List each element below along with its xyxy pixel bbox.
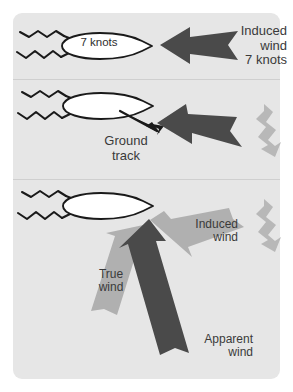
wind-diagram-figure: 7 knots Induced wind 7 knots Ground trac… (0, 0, 293, 392)
ground-track-label: Ground track (93, 134, 159, 163)
boat-speed-label: 7 knots (60, 36, 138, 48)
true-wind-label: True wind (86, 268, 136, 295)
induced-wind-arrow-panel-2 (157, 104, 242, 147)
panel-3-graphics (18, 191, 281, 355)
true-wind-zigzag-panel-2 (256, 104, 281, 157)
boat-hull-panel-3 (63, 193, 153, 219)
induced-wind-label-panel-3: Induced wind (174, 218, 238, 245)
true-wind-zigzag-panel-3 (256, 199, 281, 252)
apparent-wind-label: Apparent wind (177, 333, 253, 360)
induced-wind-label-panel-1: Induced wind 7 knots (213, 24, 287, 68)
boat-hull-panel-2 (63, 93, 153, 119)
